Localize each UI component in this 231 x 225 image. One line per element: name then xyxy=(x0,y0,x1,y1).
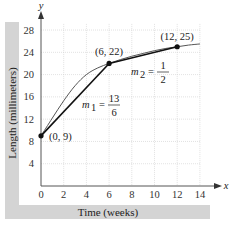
point-label: (12, 25) xyxy=(161,31,195,43)
slope-name: m xyxy=(131,66,139,77)
equals-sign: = xyxy=(99,99,105,110)
x-tick-label: 2 xyxy=(61,189,66,200)
x-axis-arrow xyxy=(214,183,222,189)
slope-numerator: 1 xyxy=(160,60,165,71)
y-tick-label: 8 xyxy=(29,136,34,147)
chart-svg: xy02468101214481216202428(0, 9)(6, 22)(1… xyxy=(0,0,231,225)
data-point xyxy=(38,133,43,138)
point-label: (6, 22) xyxy=(95,46,123,58)
x-tick-label: 8 xyxy=(129,189,134,200)
x-tick-label: 4 xyxy=(84,189,90,200)
x-tick-label: 14 xyxy=(195,189,206,200)
slope-numerator: 13 xyxy=(109,93,120,104)
x-tick-label: 0 xyxy=(38,189,43,200)
x-tick-label: 12 xyxy=(172,189,183,200)
data-point xyxy=(107,61,112,66)
y-tick-label: 12 xyxy=(24,114,35,125)
x-tick-label: 6 xyxy=(106,189,111,200)
y-tick-label: 4 xyxy=(29,158,35,169)
y-axis-letter: y xyxy=(38,0,44,11)
y-axis-arrow xyxy=(38,11,44,19)
y-tick-label: 20 xyxy=(24,69,35,80)
slope-denominator: 6 xyxy=(111,107,116,118)
data-point xyxy=(175,44,180,49)
x-tick-label: 10 xyxy=(149,189,160,200)
slope-subscript: 2 xyxy=(140,69,145,80)
slope-name: m xyxy=(82,99,90,110)
equals-sign: = xyxy=(148,66,154,77)
slope-subscript: 1 xyxy=(91,102,96,113)
y-tick-label: 28 xyxy=(24,25,35,36)
slope-denominator: 2 xyxy=(160,74,165,85)
x-axis-letter: x xyxy=(223,180,229,191)
point-label: (0, 9) xyxy=(49,131,72,143)
y-tick-label: 24 xyxy=(24,47,35,58)
y-tick-label: 16 xyxy=(24,91,35,102)
